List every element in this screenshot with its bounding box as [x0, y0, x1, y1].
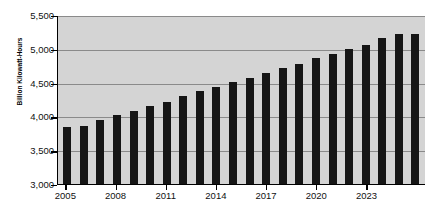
x-tick-label: 2008: [93, 190, 139, 201]
y-tick-mark: [51, 16, 57, 17]
bar: [179, 96, 187, 184]
bar: [146, 106, 154, 184]
bar: [80, 126, 88, 184]
x-tick-label: 2011: [143, 190, 189, 201]
x-tick-label: 2014: [193, 190, 239, 201]
y-tick-mark: [51, 185, 57, 186]
y-tick-label: 5,000: [20, 45, 54, 54]
bar: [212, 87, 220, 184]
x-tick-label: 2005: [42, 190, 88, 201]
bar: [113, 115, 121, 184]
bar: [96, 120, 104, 184]
bar-chart: Billion Kilowatt-Hours 5,5005,0004,5004,…: [0, 0, 437, 218]
bar: [411, 34, 419, 184]
y-axis-tick-labels: 5,5005,0004,5004,0003,5003,000: [18, 0, 54, 218]
bar: [163, 102, 171, 184]
y-tick-mark: [51, 84, 57, 85]
x-tick-label: 2023: [343, 190, 389, 201]
x-tick-label: 2017: [243, 190, 289, 201]
bar-series: [58, 16, 425, 184]
bar: [295, 64, 303, 184]
y-tick-mark: [51, 117, 57, 118]
y-tick-label: 4,500: [20, 79, 54, 88]
y-tick-label: 4,000: [20, 112, 54, 121]
y-tick-label: 5,500: [20, 11, 54, 20]
bar: [262, 73, 270, 184]
y-tick-label: 3,000: [20, 180, 54, 189]
bar: [378, 38, 386, 184]
y-tick-mark: [51, 50, 57, 51]
bar: [130, 111, 138, 184]
bar: [312, 58, 320, 184]
plot-area: [57, 16, 425, 185]
bar: [63, 127, 71, 184]
x-tick-label: 2020: [293, 190, 339, 201]
bar: [196, 91, 204, 184]
bar: [279, 68, 287, 184]
bar: [329, 54, 337, 184]
y-tick-mark: [51, 151, 57, 152]
bar: [362, 45, 370, 184]
bar: [229, 82, 237, 184]
y-tick-label: 3,500: [20, 146, 54, 155]
bar: [395, 34, 403, 184]
bar: [246, 78, 254, 184]
bar: [345, 49, 353, 184]
